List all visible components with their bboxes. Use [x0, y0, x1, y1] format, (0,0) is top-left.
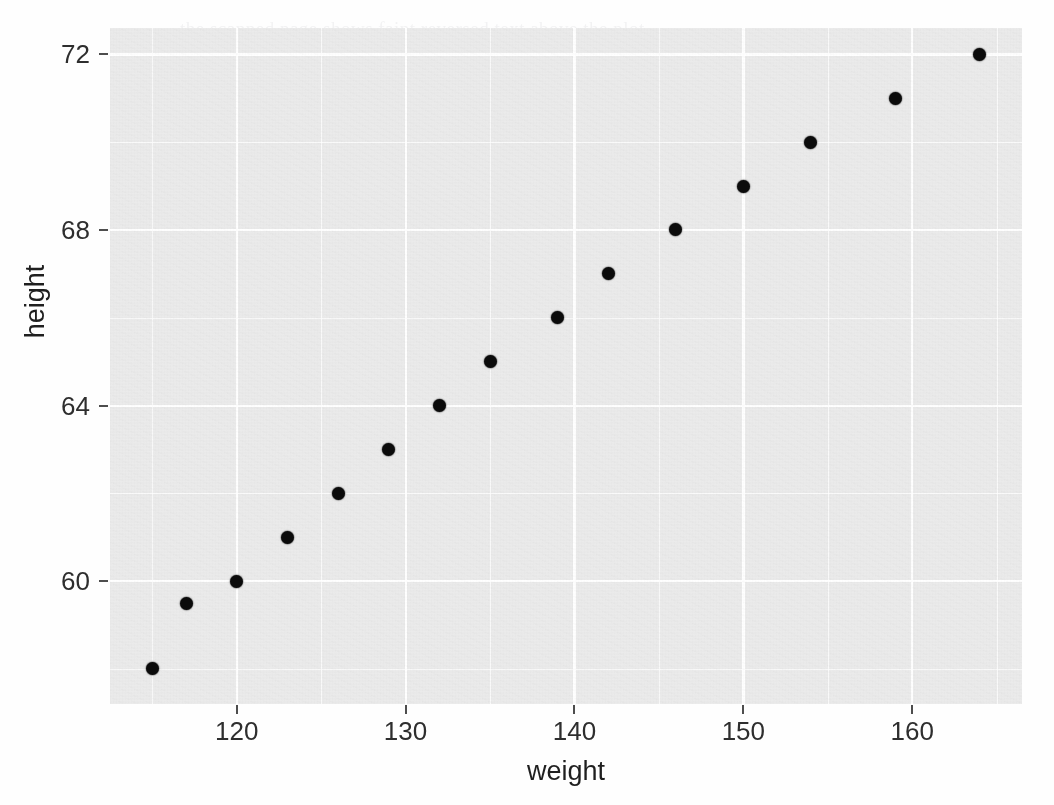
data-point: [433, 399, 446, 412]
data-point: [281, 531, 294, 544]
y-tick-label: 60: [15, 566, 90, 597]
x-tick-label: 150: [722, 716, 765, 747]
gridline-minor-vertical: [152, 28, 153, 704]
gridline-minor-vertical: [321, 28, 322, 704]
gridline-minor-horizontal: [110, 142, 1022, 143]
x-tick-label: 160: [891, 716, 934, 747]
data-point: [602, 267, 615, 280]
gridline-major-vertical: [405, 28, 407, 704]
gridline-minor-horizontal: [110, 493, 1022, 494]
y-axis-title: height: [20, 222, 51, 382]
data-point: [804, 136, 817, 149]
y-tick-mark: [99, 53, 108, 55]
data-point: [737, 180, 750, 193]
data-point: [551, 311, 564, 324]
y-tick-label: 64: [15, 390, 90, 421]
data-point: [180, 597, 193, 610]
data-point: [669, 223, 682, 236]
y-tick-label: 72: [15, 39, 90, 70]
data-point: [146, 662, 159, 675]
plot-panel: [110, 28, 1022, 704]
y-tick-mark: [99, 229, 108, 231]
gridline-major-horizontal: [110, 405, 1022, 407]
data-point: [332, 487, 345, 500]
data-point: [484, 355, 497, 368]
gridline-major-vertical: [911, 28, 913, 704]
x-tick-mark: [236, 705, 238, 714]
x-tick-mark: [742, 705, 744, 714]
data-point: [382, 443, 395, 456]
x-tick-label: 140: [553, 716, 596, 747]
gridline-minor-vertical: [997, 28, 998, 704]
x-tick-mark: [911, 705, 913, 714]
gridline-major-horizontal: [110, 580, 1022, 582]
gridline-minor-horizontal: [110, 318, 1022, 319]
y-tick-mark: [99, 405, 108, 407]
x-tick-label: 130: [384, 716, 427, 747]
x-tick-label: 120: [215, 716, 258, 747]
gridline-major-horizontal: [110, 53, 1022, 55]
gridline-major-vertical: [742, 28, 744, 704]
gridline-major-vertical: [236, 28, 238, 704]
data-point: [973, 48, 986, 61]
gridline-major-horizontal: [110, 229, 1022, 231]
x-axis-title: weight: [110, 756, 1022, 787]
gridline-minor-horizontal: [110, 669, 1022, 670]
gridline-minor-vertical: [828, 28, 829, 704]
x-tick-mark: [573, 705, 575, 714]
x-tick-mark: [405, 705, 407, 714]
gridline-major-vertical: [573, 28, 575, 704]
data-point: [889, 92, 902, 105]
data-point: [230, 575, 243, 588]
scatter-plot-figure: the scanned page shows faint reversed te…: [0, 0, 1054, 805]
gridline-minor-vertical: [659, 28, 660, 704]
y-tick-mark: [99, 580, 108, 582]
